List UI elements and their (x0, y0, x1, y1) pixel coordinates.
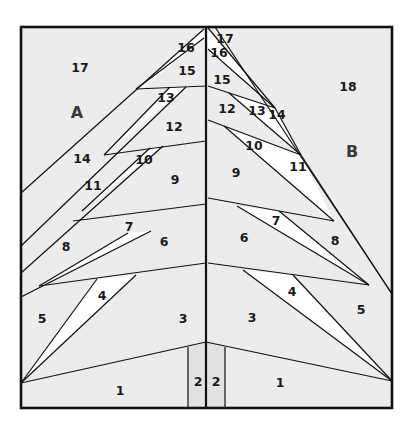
right-label-9: 9 (232, 165, 241, 180)
left-label-11: 11 (84, 178, 101, 193)
right-label-12: 12 (218, 101, 235, 116)
left-label-16: 16 (177, 40, 195, 55)
right-label-5: 5 (357, 302, 366, 317)
right-label-3: 3 (248, 310, 257, 325)
left-label-3: 3 (179, 311, 188, 326)
left-label-10: 10 (135, 152, 153, 167)
left-label-6: 6 (160, 234, 169, 249)
left-label-17: 17 (71, 60, 88, 75)
right-label-8: 8 (331, 233, 340, 248)
paper-piecing-diagram: A B 1 2 3 4 5 6 7 8 9 10 11 12 13 14 15 … (0, 0, 415, 427)
right-label-6: 6 (240, 230, 249, 245)
section-label-b: B (346, 142, 358, 161)
right-label-11: 11 (289, 159, 306, 174)
left-label-4: 4 (98, 288, 107, 303)
left-label-7: 7 (125, 219, 134, 234)
right-label-15: 15 (213, 72, 230, 87)
left-label-13: 13 (157, 90, 174, 105)
left-label-2: 2 (194, 374, 203, 389)
right-label-13: 13 (248, 103, 265, 118)
right-label-2: 2 (212, 374, 221, 389)
right-label-1: 1 (276, 375, 285, 390)
right-label-7: 7 (272, 213, 281, 228)
right-label-17: 17 (216, 31, 233, 46)
left-label-8: 8 (62, 239, 71, 254)
left-label-9: 9 (171, 172, 180, 187)
left-label-15: 15 (178, 63, 195, 78)
left-label-12: 12 (165, 119, 182, 134)
section-label-a: A (71, 103, 84, 122)
left-label-14: 14 (73, 151, 91, 166)
right-label-4: 4 (288, 284, 297, 299)
right-label-18: 18 (339, 79, 356, 94)
left-label-5: 5 (38, 311, 47, 326)
left-label-1: 1 (116, 383, 125, 398)
right-label-16: 16 (210, 45, 228, 60)
right-label-14: 14 (268, 107, 286, 122)
right-label-10: 10 (245, 138, 263, 153)
